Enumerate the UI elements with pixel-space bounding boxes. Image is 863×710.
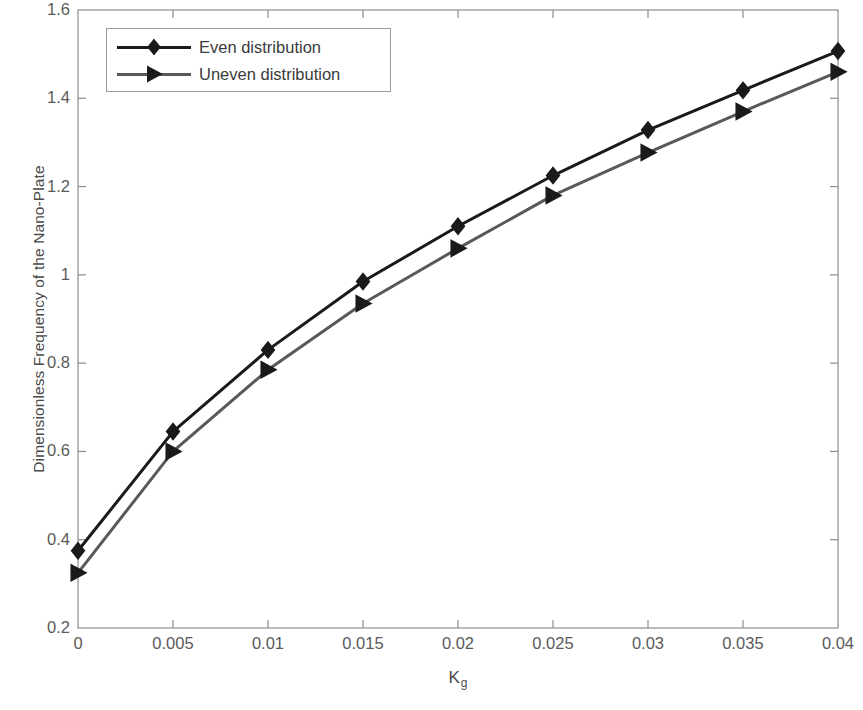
data-point-marker — [451, 240, 466, 256]
axes-box — [78, 10, 838, 628]
plot-area — [0, 0, 863, 710]
legend-label-uneven-distribution: Uneven distribution — [193, 65, 340, 84]
data-point-marker — [547, 168, 560, 184]
legend-item-even-distribution: Even distribution — [115, 34, 383, 60]
figure-canvas: Dimensionless Frequency of the Nano-Plat… — [0, 0, 863, 710]
legend: Even distribution Uneven distribution — [106, 28, 391, 92]
legend-swatch-uneven-distribution — [115, 62, 193, 86]
series-even-distribution — [72, 43, 845, 559]
legend-swatch-even-distribution — [115, 35, 193, 59]
series-line — [78, 72, 838, 573]
data-point-marker — [452, 218, 465, 234]
data-point-marker — [642, 122, 655, 138]
data-point-marker — [357, 273, 370, 289]
data-point-marker — [641, 145, 656, 161]
data-point-marker — [546, 187, 561, 203]
data-point-marker — [356, 296, 371, 312]
x-axis-label-base: K — [448, 668, 459, 687]
legend-label-even-distribution: Even distribution — [193, 38, 321, 57]
series-line — [78, 51, 838, 551]
series-uneven-distribution — [71, 64, 846, 581]
data-point-marker — [736, 104, 751, 120]
legend-marker-icon — [148, 67, 162, 82]
x-axis-label: Kg — [78, 668, 838, 690]
data-point-marker — [832, 43, 845, 59]
x-axis-label-subscript: g — [460, 676, 468, 690]
data-point-marker — [737, 82, 750, 98]
legend-item-uneven-distribution: Uneven distribution — [115, 61, 383, 87]
legend-marker-icon — [148, 40, 160, 55]
